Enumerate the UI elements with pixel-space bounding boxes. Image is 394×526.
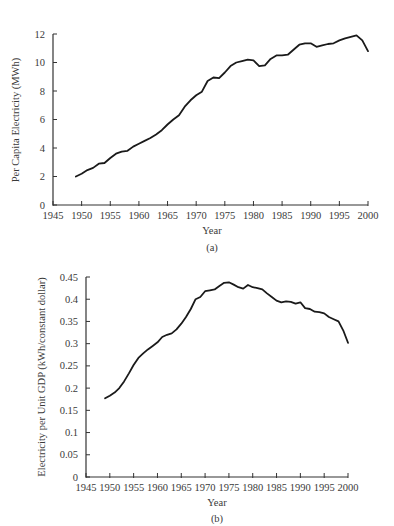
y-tick-label: 8: [40, 86, 45, 97]
y-tick-label: 0.3: [65, 338, 78, 349]
y-tick-label: 0.15: [60, 405, 78, 416]
x-axis-ticks-a: 1945195019551960196519701975198019851990…: [43, 201, 379, 221]
x-tick-label: 1985: [266, 482, 287, 493]
x-tick-label: 1955: [123, 482, 144, 493]
figure: 024681012 194519501955196019651970197519…: [0, 0, 394, 526]
x-tick-label: 1985: [272, 210, 293, 221]
x-tick-label: 2000: [358, 210, 379, 221]
x-tick-label: 1965: [157, 210, 178, 221]
x-tick-label: 1945: [43, 210, 64, 221]
y-tick-label: 0: [73, 472, 78, 483]
x-tick-label: 1980: [243, 210, 264, 221]
panel-caption-a: (a): [206, 242, 218, 254]
data-line-b: [105, 282, 348, 398]
x-tick-label: 1960: [128, 210, 149, 221]
y-tick-label: 0.25: [60, 360, 78, 371]
x-tick-label: 1980: [242, 482, 263, 493]
x-tick-label: 1975: [218, 482, 239, 493]
x-axis-ticks-b: 1945195019551960196519701975198019851990…: [76, 473, 359, 493]
x-tick-label: 1965: [171, 482, 192, 493]
x-tick-label: 1955: [100, 210, 121, 221]
x-tick-label: 1945: [76, 482, 97, 493]
y-tick-label: 0.1: [65, 427, 78, 438]
x-tick-label: 1990: [300, 210, 321, 221]
x-axis-title-b: Year: [207, 497, 227, 508]
x-tick-label: 1950: [99, 482, 120, 493]
chart-panel-a: 024681012 194519501955196019651970197519…: [10, 29, 379, 255]
y-tick-label: 4: [40, 143, 46, 154]
x-tick-label: 1960: [147, 482, 168, 493]
y-tick-label: 2: [40, 171, 45, 182]
x-tick-label: 1995: [329, 210, 350, 221]
x-tick-label: 1970: [195, 482, 216, 493]
x-tick-label: 1995: [314, 482, 335, 493]
x-tick-label: 1950: [71, 210, 92, 221]
panel-caption-b: (b): [211, 513, 224, 525]
y-tick-label: 6: [40, 114, 45, 125]
y-tick-label: 10: [35, 57, 46, 68]
x-tick-label: 1990: [290, 482, 311, 493]
y-tick-label: 0.35: [60, 316, 78, 327]
y-tick-label: 0.45: [60, 272, 78, 283]
y-tick-label: 0.4: [65, 294, 79, 305]
x-tick-label: 2000: [338, 482, 359, 493]
y-axis-title-b: Electricity per Unit GDP (kWh/constant d…: [36, 277, 48, 477]
data-line-a: [76, 35, 368, 176]
y-tick-label: 0.2: [65, 383, 78, 394]
y-tick-label: 0: [40, 200, 45, 211]
chart-panel-b: 00.050.10.150.20.250.30.350.40.45 194519…: [36, 272, 359, 526]
y-tick-label: 12: [35, 29, 46, 40]
y-axis-ticks-a: 024681012: [35, 29, 58, 211]
y-tick-label: 0.05: [60, 449, 78, 460]
x-tick-label: 1970: [186, 210, 207, 221]
x-axis-title-a: Year: [202, 225, 222, 236]
x-tick-label: 1975: [214, 210, 235, 221]
y-axis-title-a: Per Capita Electricity (MWh): [10, 57, 22, 182]
